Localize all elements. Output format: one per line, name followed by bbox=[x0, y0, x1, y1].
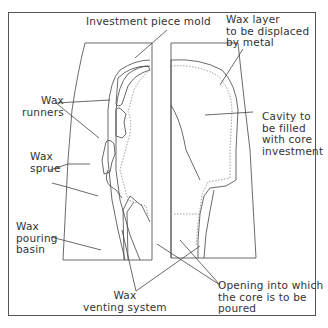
left-mold-half bbox=[63, 43, 152, 260]
label-pouring-basin: Wax pouring basin bbox=[16, 221, 58, 256]
label-opening: Opening into which the core is to be pou… bbox=[218, 280, 323, 315]
label-investment-mold: Investment piece mold bbox=[86, 16, 211, 28]
label-cavity: Cavity to be filled with core investment bbox=[262, 111, 323, 157]
label-venting-system: Wax venting system bbox=[83, 290, 167, 313]
label-wax-runners: Wax runners bbox=[22, 95, 64, 118]
label-wax-sprue: Wax sprue bbox=[30, 151, 61, 174]
right-mold-half bbox=[171, 43, 256, 258]
label-wax-layer: Wax layer to be displaced by metal bbox=[226, 14, 309, 49]
